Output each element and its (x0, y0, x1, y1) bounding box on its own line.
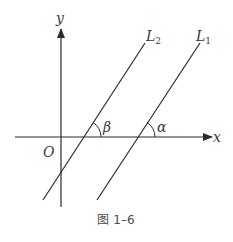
angle-alpha-label: α (157, 119, 167, 135)
angle-alpha-arc (147, 122, 155, 137)
l1-label-main: L (195, 28, 205, 44)
angle-beta-arc (93, 122, 101, 137)
angle-beta-label: β (102, 119, 111, 135)
figure-caption: 图 1–6 (97, 213, 134, 227)
line-l1 (97, 43, 200, 200)
l1-label: L1 (195, 28, 211, 46)
l2-label-main: L (145, 28, 155, 44)
x-axis-label: x (213, 129, 221, 145)
origin-label: O (43, 144, 55, 160)
l2-label-sub: 2 (155, 36, 161, 46)
l2-label: L2 (145, 28, 161, 46)
line-l2 (43, 43, 145, 200)
coordinate-diagram: y x O L2 L1 β α 图 1–6 (0, 0, 233, 242)
l1-label-sub: 1 (205, 36, 211, 46)
y-axis-label: y (55, 10, 65, 26)
